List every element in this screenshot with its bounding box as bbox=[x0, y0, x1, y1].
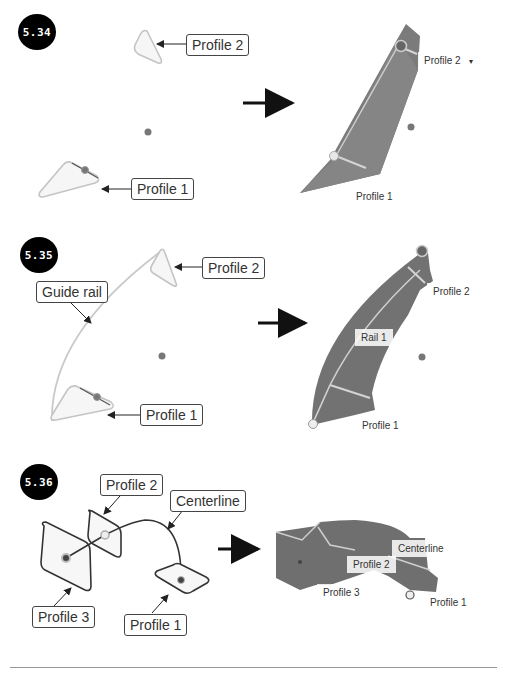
figure-5-35: 5.35 Prof bbox=[0, 225, 510, 435]
cad-label-profile-2[interactable]: Profile 2 bbox=[347, 556, 396, 573]
loft-profiles-diagram bbox=[0, 0, 510, 220]
cad-label-profile-2[interactable]: Profile 2 ▾ bbox=[418, 52, 479, 69]
callout-profile-2: Profile 2 bbox=[186, 34, 249, 56]
callout-profile-1: Profile 1 bbox=[140, 404, 203, 426]
cad-label-rail-1[interactable]: Rail 1 bbox=[355, 329, 393, 346]
cad-label-profile-2[interactable]: Profile 2 bbox=[427, 283, 476, 300]
dropdown-arrow-icon[interactable]: ▾ bbox=[469, 57, 473, 66]
cad-label-profile-3[interactable]: Profile 3 bbox=[317, 584, 366, 601]
callout-profile-2: Profile 2 bbox=[202, 257, 265, 279]
callout-guide-rail: Guide rail bbox=[36, 281, 108, 303]
cad-label-centerline[interactable]: Centerline bbox=[392, 540, 450, 557]
figure-5-34: 5.34 Profile 2 Profile 1 bbox=[0, 0, 510, 220]
callout-profile-3: Profile 3 bbox=[32, 606, 95, 628]
cad-label-profile-1[interactable]: Profile 1 bbox=[356, 417, 405, 434]
callout-profile-1: Profile 1 bbox=[124, 614, 187, 636]
cad-label-profile-1[interactable]: Profile 1 bbox=[350, 188, 399, 205]
figure-5-36: 5.36 Prof bbox=[0, 440, 510, 640]
callout-profile-1: Profile 1 bbox=[131, 178, 194, 200]
callout-profile-2: Profile 2 bbox=[100, 474, 163, 496]
cad-label-profile-1[interactable]: Profile 1 bbox=[424, 594, 473, 611]
origin-point bbox=[145, 129, 152, 136]
profile-1-sketch bbox=[39, 162, 99, 197]
page-divider bbox=[10, 667, 497, 668]
callout-centerline: Centerline bbox=[170, 490, 246, 512]
profile-2-sketch bbox=[134, 31, 161, 64]
